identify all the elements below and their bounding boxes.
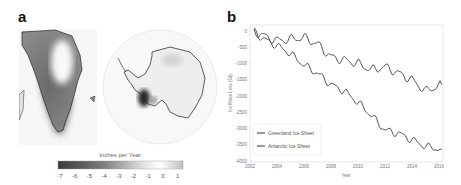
colorbar-tick: -3 xyxy=(116,173,122,179)
x-tick-label: 2014 xyxy=(407,164,418,169)
colorbar-ticks: -7-6-5-4-3-2-101 xyxy=(57,173,180,179)
y-tick-label: 0 xyxy=(244,29,247,34)
y-tick-label: -2500 xyxy=(235,110,247,115)
series-line-antarctic xyxy=(254,29,442,92)
colorbar-gradient xyxy=(58,161,183,169)
x-tick-label: 2012 xyxy=(380,164,391,169)
x-axis-label: Year xyxy=(341,173,351,178)
x-tick-label: 2016 xyxy=(434,164,445,169)
y-tick-label: -3000 xyxy=(235,126,247,131)
y-axis-ticks: 0-500-1000-1500-2000-2500-3000-3500-4000 xyxy=(235,29,252,164)
colorbar-tick: -6 xyxy=(72,173,78,179)
colorbar-title: Inches per Year xyxy=(99,152,141,158)
y-tick-label: -4000 xyxy=(235,159,247,164)
y-tick-label: -1500 xyxy=(235,77,247,82)
legend: Greenland Ice Sheet Antarctic Ice Sheet xyxy=(253,124,321,155)
line-chart: 0-500-1000-1500-2000-2500-3000-3500-4000… xyxy=(228,25,444,178)
legend-antarctic: Antarctic Ice Sheet xyxy=(268,143,311,149)
colorbar-tick: -4 xyxy=(101,173,107,179)
y-tick-label: -3500 xyxy=(235,142,247,147)
y-tick-label: -2000 xyxy=(235,94,247,99)
x-axis-ticks: 20022004200620082010201220142016 xyxy=(245,164,444,169)
x-tick-label: 2008 xyxy=(326,164,337,169)
figure-canvas: Inches per Year -7-6-5-4-3-2-101 0-500-1… xyxy=(0,0,461,185)
antarctica-map xyxy=(103,30,217,144)
colorbar-tick: -1 xyxy=(146,173,152,179)
colorbar-tick: -7 xyxy=(57,173,63,179)
y-tick-label: -500 xyxy=(238,45,248,50)
y-tick-label: -1000 xyxy=(235,61,247,66)
colorbar-tick: -5 xyxy=(87,173,93,179)
colorbar-tick: -2 xyxy=(131,173,137,179)
y-axis-label: Ice Mass Loss (Gt) xyxy=(228,74,233,112)
x-tick-label: 2006 xyxy=(299,164,310,169)
greenland-map xyxy=(19,29,97,145)
legend-greenland: Greenland Ice Sheet xyxy=(268,130,314,136)
colorbar-tick: 0 xyxy=(161,173,165,179)
x-tick-label: 2010 xyxy=(353,164,364,169)
colorbar-tick: 1 xyxy=(176,173,180,179)
x-tick-label: 2002 xyxy=(245,164,256,169)
x-tick-label: 2004 xyxy=(272,164,283,169)
colorbar: Inches per Year -7-6-5-4-3-2-101 xyxy=(57,152,183,179)
